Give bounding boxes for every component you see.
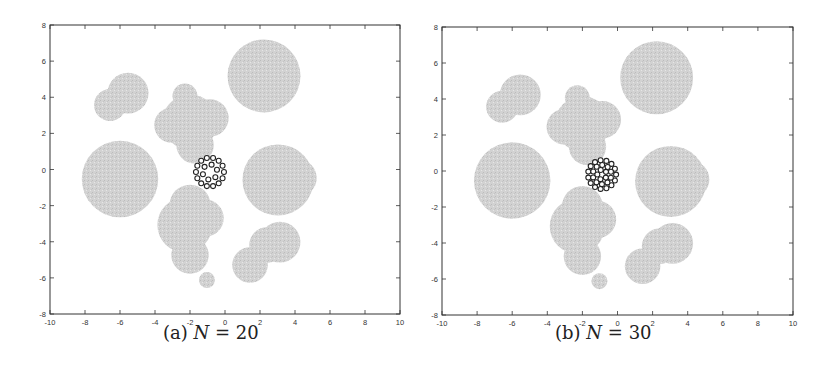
obstacle-circle	[672, 161, 709, 198]
obstacle-circle	[564, 238, 601, 275]
y-tick-label: -8	[431, 311, 438, 320]
robot-marker	[216, 158, 221, 163]
obstacle-circle	[199, 272, 215, 288]
robot-marker	[605, 164, 610, 169]
y-tick-label: 0	[42, 166, 46, 175]
y-tick-label: -8	[39, 310, 46, 319]
robot-marker	[220, 176, 225, 181]
robot-marker	[211, 155, 216, 160]
y-tick-label: -6	[431, 275, 438, 284]
robot-marker	[608, 175, 613, 180]
x-tick-label: -4	[152, 318, 159, 327]
robot-marker	[600, 163, 605, 168]
obstacle-circle	[171, 236, 208, 273]
robot-marker	[195, 163, 200, 168]
obstacle-circle	[82, 141, 158, 217]
robot-marker	[586, 169, 591, 174]
robot-marker	[588, 164, 593, 169]
robot-marker	[199, 181, 204, 186]
obstacle-circle	[474, 142, 550, 218]
x-tick-label: 8	[756, 319, 760, 328]
x-tick-label: -6	[509, 319, 516, 328]
x-tick-label: -8	[474, 319, 481, 328]
x-tick-label: 4	[686, 319, 690, 328]
x-tick-label: 6	[721, 319, 725, 328]
robot-formation	[193, 155, 226, 188]
y-tick-label: 6	[434, 59, 438, 68]
robot-marker	[216, 181, 221, 186]
caption-b-eq: =	[608, 322, 623, 343]
robot-marker	[598, 158, 603, 163]
robot-marker	[204, 155, 209, 160]
robot-marker	[598, 167, 603, 172]
robot-marker	[593, 185, 598, 190]
y-tick-label: -6	[39, 274, 46, 283]
plot-b: -10-8-6-4-20246810-8-6-4-202468	[415, 0, 830, 370]
caption-a-eq: =	[215, 322, 230, 343]
x-tick-label: -6	[117, 318, 124, 327]
caption-b-value: 30	[629, 322, 652, 343]
y-tick-label: -2	[431, 203, 438, 212]
robot-marker	[614, 172, 619, 177]
robot-marker	[220, 163, 225, 168]
obstacle-circle	[625, 248, 661, 284]
panel-b: -10-8-6-4-20246810-8-6-4-202468 (b) N = …	[415, 0, 830, 370]
robot-marker	[199, 158, 204, 163]
robot-marker	[603, 169, 608, 174]
y-tick-label: -4	[431, 239, 438, 248]
robot-marker	[608, 169, 613, 174]
y-tick-label: -4	[39, 238, 46, 247]
robot-marker	[206, 177, 211, 182]
robot-marker	[221, 170, 226, 175]
robot-marker	[209, 162, 214, 167]
y-tick-label: 4	[434, 95, 438, 104]
robot-marker	[604, 158, 609, 163]
robot-marker	[195, 176, 200, 181]
robot-marker	[598, 177, 603, 182]
robot-marker	[586, 175, 591, 180]
panel-a: -10-8-6-4-20246810-8-6-4-202468 (a) N = …	[0, 0, 415, 370]
caption-b-var: N	[586, 322, 602, 343]
obstacle-circle	[279, 159, 316, 196]
robot-marker	[214, 167, 219, 172]
y-tick-label: 2	[434, 131, 438, 140]
robot-marker	[193, 170, 198, 175]
x-tick-label: 8	[363, 318, 367, 327]
robot-marker	[588, 181, 593, 186]
x-tick-label: 10	[396, 318, 404, 327]
x-tick-label: 6	[328, 318, 332, 327]
x-tick-label: -8	[82, 318, 89, 327]
y-tick-label: 4	[42, 93, 46, 102]
plot-a: -10-8-6-4-20246810-8-6-4-202468	[0, 0, 415, 370]
robot-marker	[213, 175, 218, 180]
caption-b-prefix: (b)	[555, 322, 581, 343]
caption-a: (a) N = 20	[163, 322, 259, 343]
y-tick-label: -2	[39, 202, 46, 211]
obstacle-circle	[186, 199, 223, 236]
x-tick-label: 10	[789, 319, 797, 328]
robot-marker	[204, 184, 209, 189]
x-tick-label: -10	[437, 319, 448, 328]
robot-marker	[603, 175, 608, 180]
caption-a-value: 20	[236, 322, 259, 343]
caption-a-var: N	[194, 322, 210, 343]
obstacle-circle	[620, 41, 693, 114]
caption-b: (b) N = 30	[555, 322, 652, 343]
robot-marker	[599, 182, 604, 187]
robot-marker	[595, 172, 600, 177]
obstacle-circle	[228, 39, 301, 112]
y-tick-label: 8	[434, 23, 438, 32]
caption-a-prefix: (a)	[163, 322, 188, 343]
y-tick-label: 2	[42, 129, 46, 138]
y-tick-label: 6	[42, 57, 46, 66]
obstacle-circle	[591, 273, 607, 289]
obstacle-circle	[94, 89, 126, 121]
x-tick-label: -10	[45, 318, 56, 327]
robot-marker	[202, 164, 207, 169]
robot-marker	[200, 172, 205, 177]
robot-marker	[604, 186, 609, 191]
robot-marker	[211, 184, 216, 189]
obstacle-circle	[579, 201, 616, 238]
robot-marker	[598, 186, 603, 191]
x-tick-label: -4	[544, 319, 551, 328]
